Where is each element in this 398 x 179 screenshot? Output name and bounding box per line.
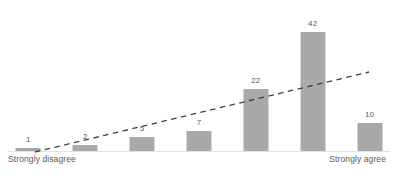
bar-group: 42	[284, 0, 341, 152]
bar-group: 22	[227, 0, 284, 152]
bar-value-label: 42	[308, 19, 317, 28]
bar-value-label: 7	[197, 118, 202, 127]
bar-group: 7	[171, 0, 228, 152]
bar-chart: 1257224210 Strongly disagree Strongly ag…	[0, 0, 398, 179]
plot-area: 1257224210	[0, 0, 398, 152]
x-axis-baseline	[8, 151, 390, 152]
bar-value-label: 1	[26, 135, 31, 144]
bar[interactable]	[130, 137, 155, 151]
bar[interactable]	[243, 89, 268, 151]
bar-value-label: 10	[365, 110, 374, 119]
bar[interactable]	[186, 131, 211, 151]
bar[interactable]	[357, 123, 382, 151]
bar-group: 10	[341, 0, 398, 152]
bar[interactable]	[300, 32, 325, 151]
axis-label-strongly-agree: Strongly agree	[329, 154, 386, 164]
bar-group: 2	[57, 0, 114, 152]
axis-endpoint-labels: Strongly disagree Strongly agree	[0, 154, 398, 172]
axis-label-strongly-disagree: Strongly disagree	[8, 154, 76, 164]
bar-value-label: 5	[140, 124, 145, 133]
bar-group: 1	[0, 0, 57, 152]
bar-group: 5	[114, 0, 171, 152]
bar-value-label: 22	[251, 76, 260, 85]
bar-value-label: 2	[83, 132, 88, 141]
bars-layer: 1257224210	[0, 0, 398, 152]
